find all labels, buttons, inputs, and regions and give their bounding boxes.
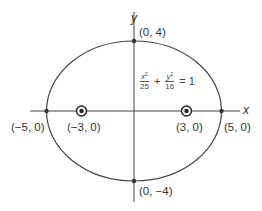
focus-left-icon <box>77 106 87 116</box>
equation-y-exp: 2 <box>170 71 173 77</box>
equation-plus: + <box>154 75 160 87</box>
vertex-left-dot <box>44 109 48 113</box>
vertex-right-dot <box>219 109 223 113</box>
ellipse-diagram <box>0 0 262 211</box>
y-axis-label: y <box>131 12 137 24</box>
label-bottom-vertex: (0, −4) <box>139 186 173 198</box>
vertex-bottom-dot <box>132 179 136 183</box>
equation-x-denominator: 25 <box>140 82 149 91</box>
label-top-vertex: (0, 4) <box>139 27 166 39</box>
equation-equals: = <box>179 75 185 87</box>
focus-right-icon <box>182 106 192 116</box>
label-left-vertex: (−5, 0) <box>11 122 45 134</box>
equation-y-denominator: 16 <box>165 82 174 91</box>
label-right-vertex: (5, 0) <box>224 122 251 134</box>
equation-term-x: x2 25 <box>140 70 149 91</box>
equation-x-exp: 2 <box>145 71 148 77</box>
x-axis-label: x <box>243 104 249 116</box>
equation-rhs: 1 <box>189 75 195 87</box>
equation-term-y: y2 16 <box>165 70 174 91</box>
vertex-top-dot <box>132 39 136 43</box>
ellipse-equation: x2 25 + y2 16 = 1 <box>138 70 195 91</box>
label-right-focus: (3, 0) <box>176 122 203 134</box>
label-left-focus: (−3, 0) <box>67 122 101 134</box>
